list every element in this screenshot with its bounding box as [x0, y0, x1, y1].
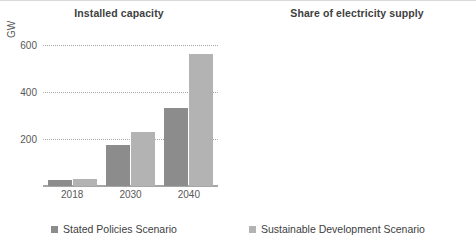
- y-axis-tick-label: 600: [3, 39, 37, 50]
- bar-sds: [189, 54, 213, 186]
- y-axis-tick-label: 200: [3, 133, 37, 144]
- y-axis-tick-label: 400: [3, 86, 37, 97]
- chart-legend: Stated Policies Scenario Sustainable Dev…: [0, 223, 476, 235]
- chart-panel-installed-capacity: Installed capacity GW 200400600201820302…: [0, 0, 238, 212]
- bar-sds: [73, 179, 97, 186]
- legend-label-sds: Sustainable Development Scenario: [261, 223, 425, 235]
- bar-group: [106, 33, 155, 186]
- x-axis-tick-label: 2030: [119, 189, 141, 200]
- plot-area-left: 200400600201820302040: [43, 33, 218, 186]
- y-axis-label-left: GW: [6, 21, 17, 38]
- bar-group: [48, 33, 97, 186]
- chart-title-right: Share of electricity supply: [238, 7, 476, 19]
- bar-steps: [164, 108, 188, 186]
- chart-title-left: Installed capacity: [0, 7, 238, 19]
- x-axis-tick-label: 2040: [178, 189, 200, 200]
- legend-label-steps: Stated Policies Scenario: [63, 223, 177, 235]
- legend-item-sustainable-development: Sustainable Development Scenario: [249, 223, 425, 235]
- legend-item-stated-policies: Stated Policies Scenario: [51, 223, 177, 235]
- x-axis-tick-label: 2018: [61, 189, 83, 200]
- bar-sds: [131, 132, 155, 186]
- figure-root: Installed capacity GW 200400600201820302…: [0, 0, 476, 243]
- bar-group: [164, 33, 213, 186]
- legend-swatch-icon-sds: [249, 226, 256, 233]
- bar-steps: [48, 180, 72, 186]
- legend-swatch-icon-steps: [51, 226, 58, 233]
- chart-panel-share-of-supply: Share of electricity supply 2%4%6%201820…: [238, 0, 476, 212]
- bar-steps: [106, 145, 130, 186]
